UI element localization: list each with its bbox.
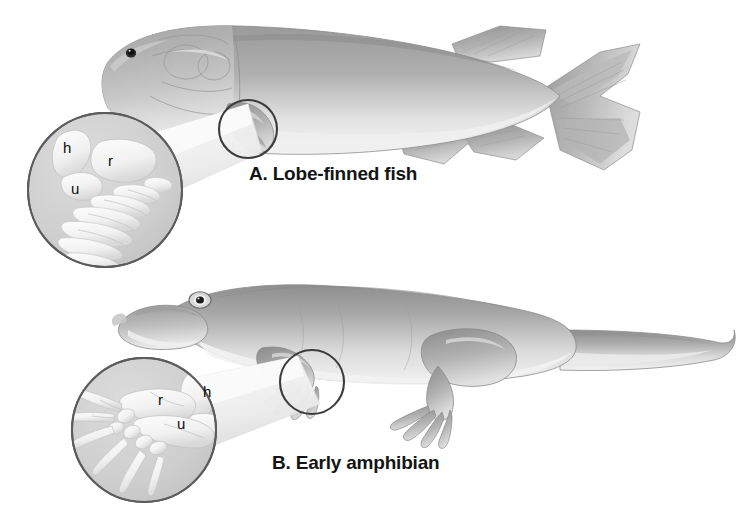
amphibian-bone-label-radius: r xyxy=(158,391,163,408)
panel-a-caption: A. Lobe-finned fish xyxy=(249,163,417,185)
fish-bone-radius xyxy=(91,139,156,182)
amphibian-head xyxy=(112,292,211,350)
fish-bone-label-radius: r xyxy=(108,152,113,169)
amphibian-tail xyxy=(560,330,735,371)
panel-a-fish-illustration xyxy=(28,26,640,272)
amphibian-bone-label-ulna: u xyxy=(177,415,185,432)
fish-eye xyxy=(126,48,136,57)
fish-caudal-fin xyxy=(545,44,640,170)
illustration-canvas xyxy=(0,0,750,527)
figure-root: h r u r h u A. Lobe-finned fish B. Early… xyxy=(0,0,750,527)
panel-b-caption: B. Early amphibian xyxy=(272,452,439,474)
fish-bone-label-humerus: h xyxy=(63,139,71,156)
amphibian-eye xyxy=(189,292,211,308)
amphibian-bone-label-humerus: h xyxy=(203,383,211,400)
fish-inset-magnifier xyxy=(28,113,182,272)
fish-bone-label-ulna: u xyxy=(71,180,79,197)
